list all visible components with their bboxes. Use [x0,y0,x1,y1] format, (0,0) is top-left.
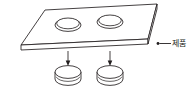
product-label: 제품 [172,39,186,48]
slug-left-top-face [55,66,81,79]
figure-root: 제품 [0,0,194,91]
plate-hole-right [97,15,123,28]
plate-top-face [21,4,157,45]
punched-plate-diagram [0,0,194,91]
drop-arrows-group [66,51,113,66]
product-leader-dot [157,42,160,45]
arrow-left [66,51,71,66]
hole-right-inner-rim [99,15,122,26]
slug-right [97,66,123,86]
slug-left [55,66,81,86]
product-leader [157,42,171,45]
hole-left-inner-rim [57,18,80,29]
plate-hole-left [55,18,81,31]
arrow-right [108,51,113,66]
slug-right-top-face [97,66,123,79]
plate-group [21,4,157,50]
